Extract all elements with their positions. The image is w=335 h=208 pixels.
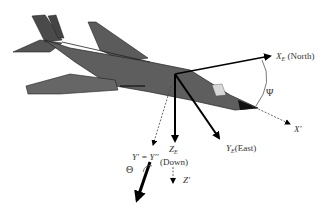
psi-arc <box>256 60 267 106</box>
ze-label: ZE <box>169 145 178 155</box>
xprime-axis-arrow <box>252 106 290 124</box>
zprime-label: Z' <box>183 176 190 185</box>
xe-label: XE (North) <box>276 52 314 62</box>
xe-axis-arrow <box>175 56 270 74</box>
psi-label: Ψ <box>266 88 273 98</box>
ze-direction-label: (Down) <box>160 158 188 167</box>
diagram-canvas <box>0 0 335 208</box>
pitch-arrow <box>137 162 150 200</box>
aircraft-illustration <box>13 15 258 110</box>
theta-label: Θ <box>126 165 133 175</box>
yprime-label: Y' = Y'' <box>132 153 158 162</box>
ye-label: YE(East) <box>226 144 256 154</box>
xprime-label: X' <box>294 125 301 134</box>
